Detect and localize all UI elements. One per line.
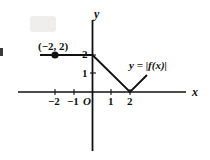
x-tick-label-minus2: −2 xyxy=(48,96,60,107)
graph-figure: y x O −2 −1 1 2 1 2 (−2, 2) y = |f(x)| xyxy=(0,0,210,160)
origin-label: O xyxy=(83,96,91,107)
curve-equation-label: y = |f(x)| xyxy=(129,60,167,71)
x-tick-label-minus1: −1 xyxy=(67,96,79,107)
y-tick-label-2: 2 xyxy=(82,49,88,60)
y-tick-label-1: 1 xyxy=(82,68,88,79)
point-annotation-label: (−2, 2) xyxy=(38,41,68,52)
x-tick-label-1: 1 xyxy=(108,96,114,107)
x-axis-label: x xyxy=(192,86,198,98)
coordinate-plot xyxy=(0,0,210,160)
marked-point-dot xyxy=(51,51,58,58)
x-tick-label-2: 2 xyxy=(127,96,133,107)
y-axis-label: y xyxy=(94,8,99,20)
